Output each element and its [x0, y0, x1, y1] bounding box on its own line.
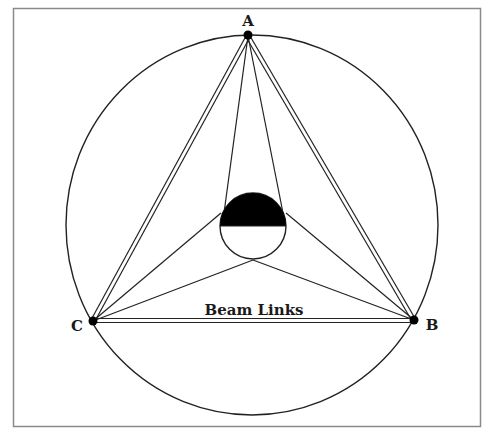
beam-link-a-b — [246, 36, 416, 321]
node-c-dot — [89, 317, 98, 326]
beam-links-diagram: A B C Beam Links — [0, 0, 491, 437]
inner-circle — [220, 193, 286, 259]
beam-link-a-c — [91, 36, 250, 321]
node-a-dot — [244, 31, 253, 40]
node-b-dot — [410, 316, 419, 325]
node-b-label: B — [426, 316, 439, 334]
link-c-inner-left — [93, 213, 221, 321]
node-c-label: C — [71, 317, 83, 335]
center-links — [93, 36, 414, 321]
beam-links-label: Beam Links — [204, 301, 303, 319]
link-b-inner-right — [286, 213, 414, 320]
inner-circle-filled-top — [220, 193, 286, 226]
node-a-label: A — [241, 12, 254, 30]
beam-link-c-b — [93, 319, 414, 323]
